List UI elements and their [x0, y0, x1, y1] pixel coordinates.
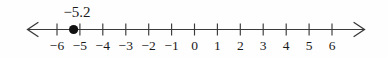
tick-label: 1 [214, 38, 221, 53]
tick-label: 3 [260, 38, 267, 53]
number-line-figure: −6 −5 −4 −3 −2 −1 0 1 2 3 4 5 6 −5.2 [0, 0, 388, 58]
tick-label: 0 [191, 38, 198, 53]
tick-label: −5 [73, 38, 88, 53]
point-value-label: −5.2 [63, 4, 90, 20]
tick-label: 4 [283, 38, 290, 53]
plotted-point [69, 25, 78, 34]
tick-label: −1 [164, 38, 178, 53]
tick-label: 2 [237, 38, 244, 53]
tick-label: −4 [96, 38, 111, 53]
tick-label: 5 [306, 38, 313, 53]
tick-label: −6 [50, 38, 65, 53]
tick-label: 6 [329, 38, 336, 53]
number-line-svg: −6 −5 −4 −3 −2 −1 0 1 2 3 4 5 6 −5.2 [0, 0, 388, 58]
tick-labels: −6 −5 −4 −3 −2 −1 0 1 2 3 4 5 6 [50, 38, 336, 53]
tick-label: −3 [119, 38, 134, 53]
tick-label: −2 [142, 38, 156, 53]
